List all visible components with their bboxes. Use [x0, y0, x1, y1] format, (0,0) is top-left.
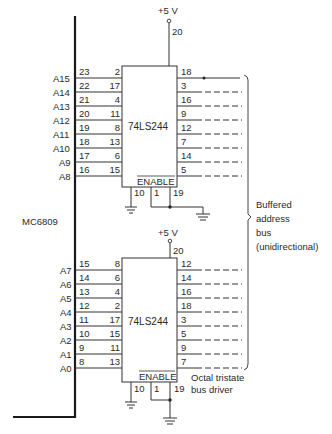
chip-in-pin: 17 [109, 80, 120, 91]
addr-label: A15 [53, 73, 70, 84]
addr-label: A0 [60, 363, 72, 374]
svg-text:(unidirectional): (unidirectional) [256, 241, 318, 252]
chip-out-pin: 5 [181, 164, 186, 175]
cpu-pin: 15 [79, 258, 90, 269]
svg-text:bus: bus [256, 227, 272, 238]
cpu-pin: 20 [79, 108, 90, 119]
svg-text:address: address [256, 213, 290, 224]
chip-out-pin: 3 [181, 80, 186, 91]
enable-pin: 10 [134, 187, 145, 198]
chip-in-pin: 4 [115, 286, 120, 297]
chip-in-pin: 11 [110, 108, 120, 119]
svg-text:bus driver: bus driver [191, 384, 233, 395]
supply-label: +5 V [158, 227, 178, 238]
chip-in-pin: 8 [115, 258, 120, 269]
addr-label: A1 [60, 349, 72, 360]
addr-label: A9 [59, 157, 71, 168]
enable-pin: 10 [134, 383, 145, 394]
supply-terminal-icon [168, 239, 172, 243]
cpu-pin: 12 [79, 300, 90, 311]
cpu-pin: 9 [79, 342, 84, 353]
chip-part-label: 74LS244 [128, 121, 168, 132]
supply-pin: 20 [173, 245, 184, 256]
chip-in-pin: 4 [115, 94, 120, 105]
supply-terminal-icon [167, 19, 171, 23]
svg-text:Octal tristate: Octal tristate [191, 372, 244, 383]
enable-wiring-lower [125, 382, 177, 424]
svg-text:Buffered: Buffered [256, 199, 292, 210]
chip-out-pin: 14 [181, 150, 192, 161]
addr-label: A7 [60, 265, 72, 276]
cpu-pin: 13 [79, 286, 90, 297]
chip-out-pin: 16 [181, 286, 192, 297]
cpu-pin: 10 [79, 328, 90, 339]
chip-in-pin: 15 [109, 164, 120, 175]
addr-label: A13 [53, 101, 70, 112]
addr-label: A14 [53, 87, 70, 98]
chip-out-pin: 14 [181, 272, 192, 283]
chip-out-pin: 7 [181, 356, 186, 367]
junction-dot-icon [203, 77, 206, 80]
buffer-chip-upper: 74LS244 ENABLE +5 V 20 A15 A14 A13 A12 A… [53, 5, 242, 220]
addr-label: A4 [60, 307, 72, 318]
cpu-pin: 18 [79, 136, 90, 147]
cpu-pin: 11 [79, 314, 89, 325]
chip-out-pin: 12 [181, 122, 192, 133]
cpu-pin: 19 [79, 122, 90, 133]
cpu-pin: 21 [79, 94, 90, 105]
chip-in-pin: 6 [115, 272, 120, 283]
addr-label: A5 [60, 293, 72, 304]
enable-pin: 19 [173, 187, 184, 198]
chip-out-pin: 3 [181, 314, 186, 325]
enable-pin: 1 [154, 187, 159, 198]
output-lines-lower [177, 270, 242, 368]
cpu-pin: 22 [79, 80, 90, 91]
cpu-pin: 23 [79, 66, 90, 77]
chip-part-label: 74LS244 [128, 316, 168, 327]
chip-out-pin: 9 [181, 342, 186, 353]
enable-label: ENABLE [137, 176, 175, 187]
chip-in-pin: 2 [115, 66, 120, 77]
addr-label: A3 [60, 321, 72, 332]
chip-out-pin: 7 [181, 136, 186, 147]
chip-in-pin: 6 [115, 150, 120, 161]
supply-label: +5 V [158, 5, 178, 16]
chip-in-pin: 2 [115, 300, 120, 311]
chip-out-pin: 18 [181, 300, 192, 311]
chip-in-pin: 8 [115, 122, 120, 133]
cpu-pin: 8 [79, 356, 84, 367]
junction-dot-icon [168, 398, 171, 401]
cpu-pin: 14 [79, 272, 90, 283]
enable-pin: 1 [154, 383, 159, 394]
addr-label: A10 [53, 143, 70, 154]
chip-in-pin: 15 [109, 328, 120, 339]
chip-out-pin: 5 [181, 328, 186, 339]
chip-in-pin: 13 [109, 356, 120, 367]
enable-label: ENABLE [139, 371, 177, 382]
chip-out-pin: 9 [181, 108, 186, 119]
chip-in-pin: 13 [109, 136, 120, 147]
addr-label: A11 [53, 129, 69, 140]
supply-pin: 20 [172, 26, 183, 37]
driver-note: Octal tristate bus driver [191, 372, 244, 395]
chip-out-pin: 16 [181, 94, 192, 105]
cpu-pin: 17 [79, 150, 90, 161]
chip-in-pin: 17 [109, 314, 120, 325]
bus-brace-icon [244, 75, 251, 370]
addr-label: A12 [53, 115, 70, 126]
chip-out-pin: 18 [181, 66, 192, 77]
chip-out-pin: 12 [181, 258, 192, 269]
cpu-pin: 16 [79, 164, 90, 175]
chip-in-pin: 11 [110, 342, 120, 353]
bus-note: Buffered address bus (unidirectional) [256, 199, 318, 252]
addr-label: A2 [60, 335, 72, 346]
enable-pin: 19 [174, 383, 185, 394]
processor-label: MC6809 [22, 216, 58, 227]
addr-label: A6 [60, 279, 72, 290]
schematic-canvas: MC6809 74LS244 ENABLE +5 V 20 A15 A14 A1… [0, 0, 332, 434]
addr-label: A8 [59, 171, 71, 182]
